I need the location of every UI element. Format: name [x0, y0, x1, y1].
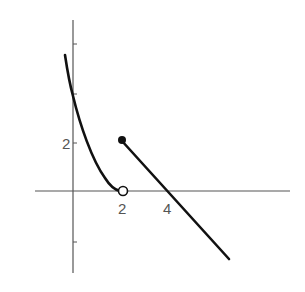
y-tick-label-2: 2 — [62, 135, 70, 152]
open-circle-endpoint — [119, 187, 128, 196]
function-graph: 2 2 4 — [0, 0, 305, 292]
filled-circle-endpoint — [118, 136, 126, 144]
x-tick-label-2: 2 — [118, 200, 126, 217]
x-tick-label-4: 4 — [163, 200, 171, 217]
line-right-piece — [122, 141, 229, 259]
